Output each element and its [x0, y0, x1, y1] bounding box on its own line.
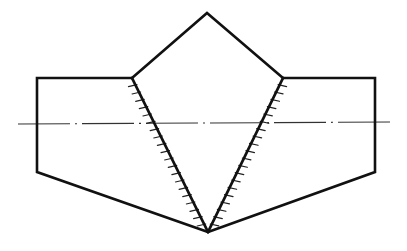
weld-edges [132, 78, 283, 232]
centerline-axis [18, 122, 394, 124]
right-plate-outline [208, 78, 375, 232]
centerline [18, 122, 394, 124]
weld-joint-diagram [0, 0, 407, 251]
weld-cap-outline [132, 13, 283, 78]
left-plate-outline [37, 78, 208, 232]
weld-tick-marks [128, 85, 286, 226]
